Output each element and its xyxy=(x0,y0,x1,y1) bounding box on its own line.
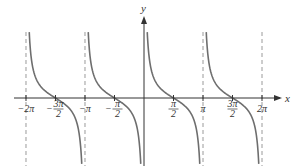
tick-text: π xyxy=(200,103,206,114)
tick-text: −π xyxy=(79,103,92,114)
tick-denominator: 2 xyxy=(115,108,120,119)
tick-denominator: 2 xyxy=(171,108,176,119)
tick-denominator: 2 xyxy=(230,108,235,119)
x-axis-label: x xyxy=(284,92,290,104)
x-tick-label: −2π xyxy=(18,103,36,114)
x-tick-label: π xyxy=(200,103,206,114)
tick-text: −2π xyxy=(18,103,36,114)
x-tick-label: −π2 xyxy=(105,98,122,119)
y-axis-arrow-icon xyxy=(141,16,147,24)
axes: x y xyxy=(14,2,290,166)
x-tick-label: 3π2 xyxy=(226,98,238,119)
tick-sign: − xyxy=(105,103,112,114)
x-tick-label: 2π xyxy=(257,103,268,114)
x-tick-label: −π xyxy=(79,103,92,114)
x-tick-label: π2 xyxy=(169,98,179,119)
ticks: −2π−3π2−π−π2π2π3π22π xyxy=(18,95,268,119)
x-axis-arrow-icon xyxy=(274,95,282,101)
y-axis-label: y xyxy=(140,2,146,14)
x-tick-label: −3π2 xyxy=(46,98,64,119)
tick-denominator: 2 xyxy=(56,108,61,119)
tick-text: 2π xyxy=(257,103,268,114)
cotangent-chart: x y −2π−3π2−π−π2π2π3π22π xyxy=(0,0,292,166)
tick-sign: − xyxy=(46,103,53,114)
